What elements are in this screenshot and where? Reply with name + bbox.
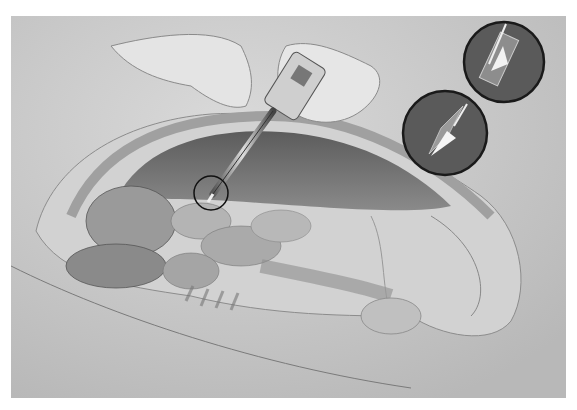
illustration-canvas (11, 16, 566, 398)
trocar-tip-detail-top (464, 22, 544, 102)
trocar-tip-detail-bottom (403, 91, 487, 175)
medical-illustration (11, 16, 566, 398)
